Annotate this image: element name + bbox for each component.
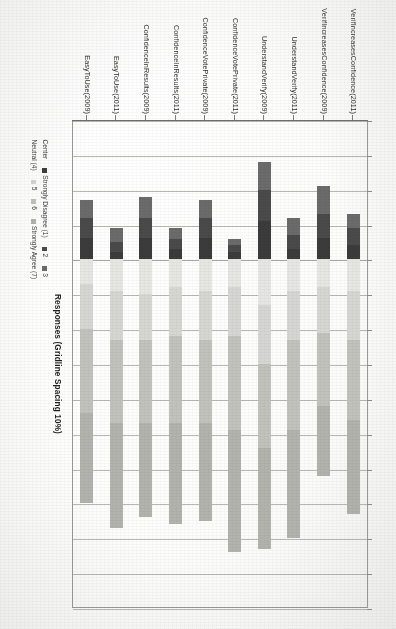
bar-negative [228, 239, 241, 260]
bar-segment [288, 235, 301, 249]
bar-segment [347, 291, 360, 340]
legend-swatch [42, 168, 47, 173]
bar-segment [317, 214, 330, 238]
bar-segment [110, 242, 123, 252]
axis-tick [367, 504, 372, 505]
bar-segment [169, 259, 182, 287]
legend-item: 6 [30, 199, 37, 210]
bar-segment [140, 197, 153, 218]
gridline [73, 121, 367, 122]
category-label: EasyToUse(2009) [83, 0, 92, 114]
bar-segment [140, 340, 153, 424]
bar-segment [288, 249, 301, 259]
bar-positive [80, 259, 93, 503]
legend-swatch [42, 266, 47, 271]
category-tick [86, 115, 87, 120]
legend-label: 2 [41, 254, 48, 258]
legend-swatch [31, 199, 36, 204]
bar-segment [288, 430, 301, 538]
category-tick [323, 115, 324, 120]
bar-segment [199, 340, 212, 424]
category-label: UnderstandVerify(2011) [290, 0, 299, 114]
legend-item: Strongly Disagree (1) [41, 168, 48, 237]
bar-segment [317, 259, 330, 287]
axis-title: Responses (Gridline Spacing 10%) [53, 120, 62, 608]
legend-item: 3 [41, 266, 48, 277]
bar-negative [110, 228, 123, 259]
gridline [73, 156, 367, 157]
axis-tick [367, 121, 372, 122]
bar-segment [140, 238, 153, 259]
category-label: ConfidenceVotePrivate(2011) [231, 0, 240, 114]
scanned-page: VerifIncreasesConfidence(2011)VerifIncre… [0, 0, 396, 629]
axis-tick [367, 400, 372, 401]
bar-negative [317, 186, 330, 259]
category-tick [145, 115, 146, 120]
bar-segment [228, 252, 241, 259]
category-tick [293, 115, 294, 120]
category-tick [204, 115, 205, 120]
bar-segment [347, 245, 360, 259]
category-label: UnderstandVerify(2009) [260, 0, 269, 114]
bar-segment [199, 291, 212, 340]
bar-segment [80, 200, 93, 217]
legend-item: Neutral (4) [30, 124, 37, 171]
bar-segment [80, 218, 93, 239]
bar-segment [258, 305, 271, 364]
bar-positive [228, 259, 241, 552]
axis-tick [367, 226, 372, 227]
category-label: ConfidenceInResults(2009) [142, 0, 151, 114]
legend-label: Strongly Agree (7) [30, 226, 37, 279]
legend-item: Strongly Agree (7) [30, 219, 37, 279]
bar-segment [199, 423, 212, 521]
bar-segment [169, 249, 182, 259]
bar-segment [110, 259, 123, 290]
category-label: ConfidenceVotePrivate(2009) [201, 0, 210, 114]
legend-label: Center [41, 140, 48, 160]
bar-segment [258, 221, 271, 259]
axis-tick [367, 609, 372, 610]
bar-segment [288, 340, 301, 431]
category-tick [234, 115, 235, 120]
gridline [73, 539, 367, 540]
bar-segment [258, 190, 271, 221]
legend-label: 5 [30, 187, 37, 191]
category-label: EasyToUse(2011) [112, 0, 121, 114]
bar-segment [140, 218, 153, 239]
bar-segment [80, 284, 93, 329]
bar-segment [317, 287, 330, 332]
axis-tick [367, 435, 372, 436]
bar-segment [258, 364, 271, 448]
bar-segment [169, 239, 182, 249]
bar-segment [288, 259, 301, 290]
axis-tick [367, 470, 372, 471]
bar-positive [110, 259, 123, 527]
bar-segment [317, 186, 330, 214]
bar-segment [80, 413, 93, 504]
bar-positive [288, 259, 301, 538]
bar-positive [347, 259, 360, 513]
bar-segment [80, 238, 93, 259]
bar-negative [169, 228, 182, 259]
bar-segment [80, 329, 93, 413]
bar-segment [199, 200, 212, 217]
chart-legend: CenterStrongly Disagree (1)23 Neutral (4… [28, 124, 50, 604]
bar-segment [228, 245, 241, 252]
category-label: VerifIncreasesConfidence(2009) [320, 0, 329, 114]
category-tick [352, 115, 353, 120]
category-tick [263, 115, 264, 120]
category-tick [115, 115, 116, 120]
bar-segment [110, 228, 123, 242]
legend-swatch [31, 219, 36, 224]
axis-tick [367, 539, 372, 540]
bar-segment [347, 420, 360, 514]
legend-row-2: Neutral (4)56Strongly Agree (7) [28, 124, 39, 604]
bar-negative [80, 200, 93, 259]
bar-segment [199, 259, 212, 290]
legend-label: 6 [30, 206, 37, 210]
bar-segment [140, 423, 153, 517]
bar-segment [140, 294, 153, 339]
bar-segment [169, 287, 182, 336]
bar-negative [288, 218, 301, 260]
bar-negative [140, 197, 153, 260]
